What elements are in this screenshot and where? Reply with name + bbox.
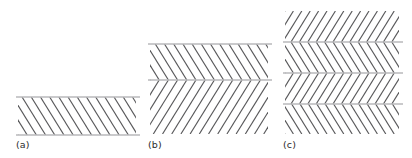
hatch-line [279,11,293,42]
hatch-line [273,80,274,134]
hatch-line [279,11,285,42]
hatch-line [350,42,369,73]
hatch-line [68,97,92,135]
hatch-line [291,42,310,73]
hatch-line [279,42,285,73]
hatch-layer-c-2 [279,73,405,104]
hatch-line [181,80,214,134]
hatch-line [238,44,260,80]
hatch-layer-c-0 [279,11,405,42]
panel-c-graphic [279,5,405,140]
hatch-line [350,11,369,42]
hatch-line [392,73,405,104]
hatch-line [264,80,274,134]
hatch-line [392,104,405,134]
hatch-line [291,73,310,104]
hatch-line [146,44,168,80]
hatch-line [325,11,344,42]
hatch-line [292,104,311,134]
panel-a [12,91,142,141]
panel-c-label: (c) [283,140,296,150]
hatch-line [367,104,386,134]
hatch-line [77,97,101,135]
hatch-line [96,97,120,135]
hatch-line [367,42,386,73]
hatch-line [358,11,377,42]
hatch-line [279,73,293,104]
hatch-line [308,73,327,104]
hatch-line [300,104,319,134]
hatch-line [209,80,242,134]
hatch-line [299,11,318,42]
hatch-line [359,104,378,134]
hatch-line [400,11,405,42]
hatch-line [341,11,360,42]
hatch-line [283,11,302,42]
hatch-line [367,11,386,42]
hatch-line [31,97,55,135]
hatch-line [105,97,129,135]
hatch-line [236,80,269,134]
hatch-line [218,80,251,134]
hatch-line [283,42,302,73]
hatch-line [59,97,83,135]
hatch-line [12,97,18,135]
hatch-line [325,73,344,104]
hatch-line [153,80,186,134]
panel-b-label: (b) [148,140,162,150]
hatch-line [199,80,232,134]
hatch-line [401,104,405,134]
hatch-line [227,80,260,134]
hatch-line [367,73,386,104]
hatch-line [192,44,214,80]
hatch-line [283,104,302,134]
hatch-line [155,44,177,80]
hatch-line [384,104,403,134]
hatch-line [279,73,285,104]
hatch-line [375,42,394,73]
hatch-line [190,80,223,134]
hatch-line [144,44,150,80]
figure-canvas: (a) (b) (c) [0,0,412,158]
hatch-line [392,11,405,42]
hatch-line [114,97,138,135]
hatch-line [334,104,353,134]
hatch-line [172,80,205,134]
hatch-line [358,42,377,73]
hatch-line [333,42,352,73]
hatch-line [316,73,335,104]
hatch-line [164,44,186,80]
hatch-line [291,11,310,42]
hatch-line [325,42,344,73]
hatch-line [283,73,302,104]
hatch-line [317,104,336,134]
hatch-line [229,44,251,80]
hatch-line [144,80,168,134]
panel-a-graphic [12,91,142,141]
hatch-line [183,44,205,80]
hatch-line [163,80,196,134]
hatch-line [308,11,327,42]
panel-b [144,38,274,140]
panel-c [279,5,405,140]
hatch-line [279,42,293,73]
panel-a-label: (a) [16,140,30,150]
hatch-layer-c-3 [279,104,405,134]
hatch-line [316,42,335,73]
hatch-line [383,42,402,73]
hatch-line [341,73,360,104]
hatch-line [350,73,369,104]
hatch-line [400,73,405,104]
hatch-line [358,73,377,104]
hatch-line [400,42,405,73]
hatch-line [308,42,327,73]
hatch-line [220,44,242,80]
hatch-line [350,104,369,134]
hatch-line [247,44,269,80]
hatch-line [342,104,361,134]
panel-b-graphic [144,38,274,140]
hatch-line [144,80,177,134]
hatch-line [333,73,352,104]
hatch-line [144,80,150,134]
hatch-line [86,97,110,135]
